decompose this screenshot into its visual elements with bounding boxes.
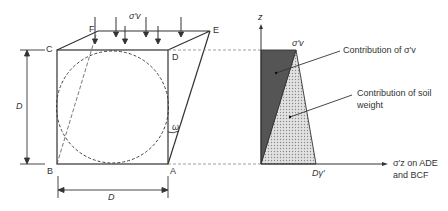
point-label-A: A [170,166,176,177]
point-label-C: C [46,44,53,55]
sheared-edge-BF [57,35,96,164]
annotation-soil-line2: weight [357,100,383,111]
stress-axis-label-line1: σ′z on ADE [393,158,438,169]
point-label-B: B [47,166,53,177]
surcharge-label: σ′v [129,11,141,22]
sheared-edge-AE [168,31,210,164]
stress-axis-label-line2: and BCF [393,170,429,181]
annotation-surcharge: Contribution of σ′v [343,45,416,56]
stress-axis-arrowhead [382,162,388,166]
dimension-vertical-label: D [16,101,23,112]
dimension-vertical [20,50,45,164]
point-label-D: D [172,52,179,63]
point-label-F: F [89,24,95,35]
inscribed-circle [57,51,169,163]
z-axis-arrowhead [259,24,263,29]
top-value-label: σ′v [292,38,304,49]
top-face-CFED [57,31,210,50]
z-axis-label: z [258,12,263,23]
angle-omega-label: ω [172,122,179,133]
bottom-value-label: Dγ′ [312,168,325,179]
dimension-horizontal-label: D [108,192,115,203]
annotation-soil-line1: Contribution of soil [357,88,432,99]
point-label-E: E [213,25,219,36]
